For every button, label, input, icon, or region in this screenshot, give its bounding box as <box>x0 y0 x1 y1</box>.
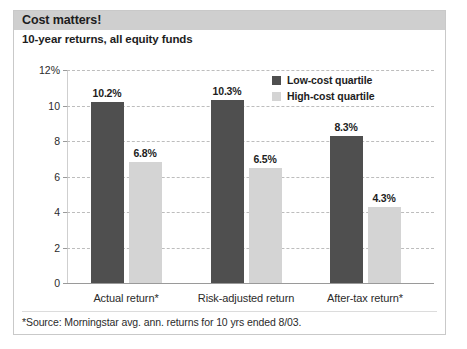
y-tick-mark <box>63 106 67 107</box>
y-tick-label: 12% <box>39 64 60 76</box>
bar-value-label: 10.3% <box>205 85 250 97</box>
bar-value-label: 8.3% <box>324 121 369 133</box>
y-tick-label: 4 <box>54 206 60 218</box>
y-tick-mark <box>63 177 67 178</box>
x-axis-label-3: After-tax return* <box>285 292 445 304</box>
bar-value-label: 4.3% <box>362 192 407 204</box>
x-axis-line <box>67 283 434 284</box>
y-tick-mark <box>63 283 67 284</box>
footnote-text: *Source: Morningstar avg. ann. returns f… <box>22 316 301 328</box>
y-tick-mark <box>63 141 67 142</box>
bar-high-cost <box>249 168 282 283</box>
y-tick-mark <box>63 70 67 71</box>
y-tick-label: 0 <box>54 277 60 289</box>
bar-value-label: 6.8% <box>123 147 168 159</box>
bar-high-cost <box>129 162 162 283</box>
y-tick-mark <box>63 248 67 249</box>
y-tick-label: 6 <box>54 171 60 183</box>
chart-figure: Cost matters! 10-year returns, all equit… <box>13 10 446 335</box>
y-tick-mark <box>63 212 67 213</box>
chart-subtitle: 10-year returns, all equity funds <box>22 33 193 45</box>
bar-value-label: 6.5% <box>243 153 288 165</box>
y-tick-label: 8 <box>54 135 60 147</box>
bar-value-label: 10.2% <box>85 87 130 99</box>
footnote-divider <box>22 311 437 312</box>
y-tick-label: 2 <box>54 242 60 254</box>
page-title: Cost matters! <box>22 13 101 27</box>
gridline <box>67 70 434 71</box>
bar-high-cost <box>368 207 401 283</box>
bar-low-cost <box>330 136 363 283</box>
plot-area: 024681012% 10.2%6.8%10.3%6.5%8.3%4.3% Ac… <box>67 70 434 283</box>
bar-low-cost <box>91 102 124 283</box>
y-tick-label: 10 <box>48 100 60 112</box>
bar-low-cost <box>211 100 244 283</box>
